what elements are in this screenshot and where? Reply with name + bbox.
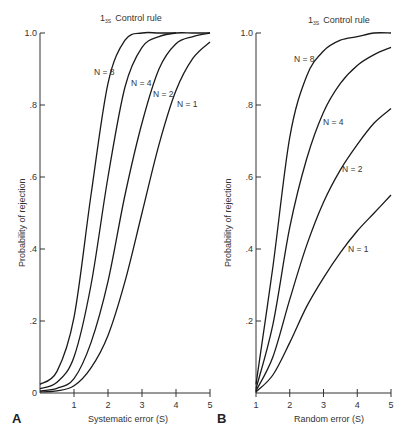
- x-tick-label: 1: [253, 400, 258, 410]
- y-tick-label: 1.0: [24, 28, 37, 38]
- y-tick-label: .4: [245, 244, 253, 254]
- curve-n1: [40, 42, 210, 392]
- label-n4: N = 4: [323, 117, 344, 127]
- curve-n8: [40, 32, 176, 384]
- label-n2: N = 2: [342, 164, 363, 174]
- y-tick-label: .4: [29, 244, 37, 254]
- figure: 13SControl rule 0.2.4.6.81.012345 N = 8 …: [0, 0, 409, 431]
- x-tick-label: 4: [173, 400, 178, 410]
- panel-a-letter: A: [12, 411, 22, 426]
- panel-a-ylabel: Probability of rejection: [17, 178, 27, 267]
- label-n2: N = 2: [153, 89, 174, 99]
- label-n4: N = 4: [131, 78, 152, 88]
- panel-a-xlabel: Systematic error (S): [88, 414, 168, 424]
- panel-b-letter: B: [217, 411, 226, 426]
- x-tick-label: 2: [105, 400, 110, 410]
- x-tick-label: 3: [321, 400, 326, 410]
- panel-b-ylabel: Probability of rejection: [223, 178, 233, 267]
- curve-n1: [256, 195, 391, 392]
- panel-b-chart: 13SControl rule .2.4.6.81.012345 N = 8 N…: [217, 15, 394, 426]
- curve-n4: [256, 47, 391, 388]
- panel-b-title: 13SControl rule: [308, 15, 370, 26]
- panel-a-chart: 13SControl rule 0.2.4.6.81.012345 N = 8 …: [12, 13, 213, 426]
- curve-n2: [256, 109, 391, 391]
- x-tick-label: 4: [355, 400, 360, 410]
- curve-n8: [256, 33, 391, 385]
- label-n8: N = 8: [294, 54, 315, 64]
- label-n8: N = 8: [94, 67, 115, 77]
- panel-b-curves: [256, 33, 391, 392]
- x-tick-label: 3: [139, 400, 144, 410]
- y-tick-label: .8: [29, 100, 37, 110]
- panel-a-title: 13SControl rule: [100, 13, 162, 24]
- curve-n4: [40, 33, 210, 389]
- panel-a-curves: [40, 32, 210, 391]
- y-tick-label: .6: [29, 172, 37, 182]
- y-tick-label: .2: [29, 316, 37, 326]
- label-n1: N = 1: [348, 244, 369, 254]
- x-tick-label: 2: [287, 400, 292, 410]
- y-tick-label: .6: [245, 172, 253, 182]
- label-n1: N = 1: [177, 99, 198, 109]
- x-tick-label: 5: [207, 400, 212, 410]
- y-tick-label: 0: [32, 388, 37, 398]
- x-tick-label: 1: [71, 400, 76, 410]
- y-tick-label: .2: [245, 316, 253, 326]
- y-tick-label: 1.0: [240, 28, 253, 38]
- x-tick-label: 5: [388, 400, 393, 410]
- panel-b-xlabel: Random error (S): [294, 414, 364, 424]
- panel-a-axes: 0.2.4.6.81.012345: [24, 28, 212, 410]
- y-tick-label: .8: [245, 100, 253, 110]
